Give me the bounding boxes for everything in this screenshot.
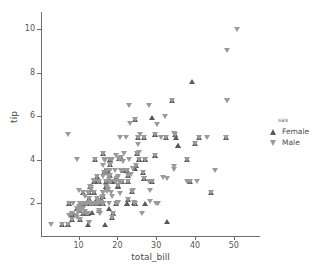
data-point-male (155, 201, 161, 206)
data-point-male (97, 211, 103, 216)
data-point-female (80, 211, 86, 216)
data-point-female (142, 201, 148, 206)
data-point-female (77, 208, 83, 213)
data-point-female (141, 176, 147, 181)
data-point-male (194, 179, 200, 184)
data-point-female (100, 151, 106, 156)
data-point-male (91, 201, 97, 206)
data-point-male (224, 98, 230, 103)
data-point-male (120, 159, 126, 164)
y-tick-label: 2 (30, 199, 35, 207)
data-point-male (109, 194, 115, 199)
data-point-female (85, 211, 91, 216)
data-point-male (117, 135, 123, 140)
data-point-male (74, 206, 80, 211)
data-point-female (175, 143, 181, 148)
data-point-male (86, 200, 92, 205)
data-point-female (141, 176, 147, 181)
data-point-male (223, 135, 229, 140)
data-point-male (130, 188, 136, 193)
data-point-female (96, 179, 102, 184)
data-point-male (113, 153, 119, 158)
data-point-male (65, 132, 71, 137)
data-point-male (104, 168, 110, 173)
data-point-male (115, 200, 121, 205)
data-point-male (100, 163, 106, 168)
data-point-male (125, 197, 131, 202)
data-point-female (102, 168, 108, 173)
data-point-male (99, 195, 105, 200)
data-point-male (224, 98, 230, 103)
data-point-female (132, 201, 138, 206)
data-point-male (160, 175, 166, 180)
data-point-male (152, 132, 158, 137)
data-point-male (147, 188, 153, 193)
data-point-male (113, 179, 119, 184)
data-point-female (106, 206, 112, 211)
data-point-male (152, 153, 158, 158)
data-point-female (81, 201, 87, 206)
y-tick-mark (37, 73, 41, 74)
legend-item-label: Male (282, 138, 300, 147)
x-tick-label: 40 (190, 242, 200, 250)
data-point-male (146, 179, 152, 184)
data-point-male (121, 151, 127, 156)
data-point-female (149, 115, 155, 120)
data-point-female (152, 153, 158, 158)
legend-item-female[interactable]: Female (266, 126, 321, 137)
data-point-female (107, 157, 113, 162)
data-point-male (104, 185, 110, 190)
data-point-female (142, 157, 148, 162)
data-point-female (88, 187, 94, 192)
data-point-male (105, 187, 111, 192)
data-point-male (100, 190, 106, 195)
data-point-male (184, 179, 190, 184)
data-point-male (133, 163, 139, 168)
data-point-male (104, 168, 110, 173)
data-point-male (88, 185, 94, 190)
data-point-male (110, 211, 116, 216)
data-point-female (109, 215, 115, 220)
data-point-male (94, 174, 100, 179)
legend-item-male[interactable]: Male (266, 137, 321, 148)
data-point-female (90, 201, 96, 206)
data-point-male (130, 166, 136, 171)
data-point-male (76, 207, 82, 212)
data-point-male (136, 150, 142, 155)
x-tick-mark (79, 236, 80, 240)
data-point-male (147, 199, 153, 204)
data-point-male (65, 222, 71, 227)
data-point-male (87, 201, 93, 206)
data-point-female (101, 170, 107, 175)
data-point-male (91, 190, 97, 195)
data-point-male (142, 157, 148, 162)
data-point-female (96, 208, 102, 213)
data-point-male (91, 179, 97, 184)
data-point-female (107, 173, 113, 178)
data-point-female (103, 184, 109, 189)
data-point-male (106, 201, 112, 206)
data-point-female (103, 179, 109, 184)
data-point-male (79, 201, 85, 206)
data-point-male (81, 201, 87, 206)
data-point-male (79, 201, 85, 206)
data-point-male (100, 201, 106, 206)
data-point-male (92, 157, 98, 162)
x-tick-mark (234, 236, 235, 240)
data-point-female (102, 222, 108, 227)
data-point-male (86, 220, 92, 225)
data-point-female (87, 184, 93, 189)
data-point-male (119, 179, 125, 184)
data-point-male (100, 190, 106, 195)
data-point-male (118, 155, 124, 160)
data-point-female (118, 155, 124, 160)
data-point-female (136, 157, 142, 162)
data-point-male (212, 168, 218, 173)
y-tick-mark (37, 203, 41, 204)
data-point-female (107, 162, 113, 167)
data-point-female (112, 179, 118, 184)
data-point-female (91, 179, 97, 184)
data-point-female (87, 201, 93, 206)
data-point-male (106, 177, 112, 182)
data-point-male (158, 135, 164, 140)
